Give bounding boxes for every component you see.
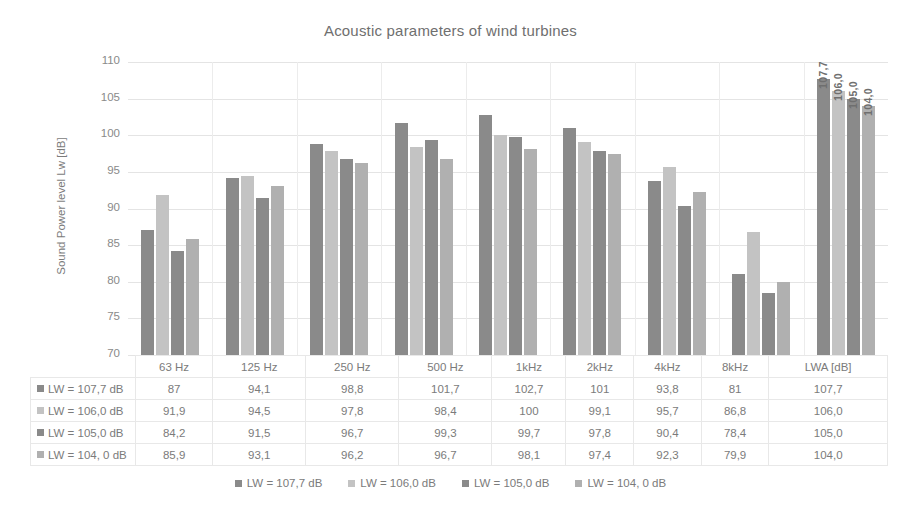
table-cell: 94,5 — [213, 400, 306, 422]
bar-cluster — [466, 62, 550, 355]
bar[interactable] — [440, 159, 453, 355]
table-cell: 91,9 — [136, 400, 213, 422]
bar[interactable] — [156, 195, 169, 355]
bar[interactable] — [762, 293, 775, 355]
bar-group — [635, 62, 719, 355]
bar[interactable] — [325, 151, 338, 355]
bar[interactable] — [355, 163, 368, 355]
table-row-header: LW = 104, 0 dB — [31, 444, 136, 466]
bar[interactable] — [241, 176, 254, 355]
bar-group — [719, 62, 803, 355]
y-axis-tick-label: 80 — [74, 274, 120, 286]
table-cell: 95,7 — [634, 400, 702, 422]
table-cell: 101 — [566, 378, 634, 400]
chart-legend: LW = 107,7 dBLW = 106,0 dBLW = 105,0 dBL… — [0, 477, 901, 489]
bar[interactable] — [663, 167, 676, 355]
bar[interactable] — [777, 282, 790, 355]
bar[interactable]: 105,0 — [847, 99, 860, 355]
table-cell: 104,0 — [769, 444, 888, 466]
table-row-header: LW = 107,7 dB — [31, 378, 136, 400]
bar[interactable] — [693, 192, 706, 355]
bar[interactable] — [648, 181, 661, 355]
bar[interactable]: 106,0 — [832, 91, 845, 355]
bar-cluster — [128, 62, 212, 355]
legend-item-label: LW = 105,0 dB — [474, 477, 550, 489]
table-cell: 97,8 — [566, 422, 634, 444]
legend-item[interactable]: LW = 104, 0 dB — [575, 477, 666, 489]
bar[interactable] — [395, 123, 408, 355]
table-cell: 85,9 — [136, 444, 213, 466]
table-column-header: 250 Hz — [306, 356, 399, 378]
table-cell: 93,1 — [213, 444, 306, 466]
bar[interactable] — [578, 142, 591, 355]
bar[interactable] — [678, 206, 691, 355]
y-axis-tick-label: 105 — [74, 91, 120, 103]
bar[interactable] — [425, 140, 438, 355]
table-column-header: 500 Hz — [399, 356, 492, 378]
bar[interactable] — [593, 151, 606, 355]
table-corner-cell — [31, 356, 136, 378]
bar[interactable] — [509, 137, 522, 355]
bar[interactable]: 107,7 — [817, 79, 830, 355]
table-row: LW = 107,7 dB8794,198,8101,7102,710193,8… — [31, 378, 888, 400]
table-cell: 96,7 — [399, 444, 492, 466]
cluster-separator — [297, 62, 298, 355]
bar[interactable] — [732, 274, 745, 355]
table-row-label: LW = 106,0 dB — [48, 405, 124, 417]
table-column-header: 1kHz — [492, 356, 566, 378]
y-axis-tick-label: 100 — [74, 127, 120, 139]
bar[interactable] — [256, 198, 269, 355]
bar-data-label: 106,0 — [826, 73, 838, 101]
bar[interactable] — [310, 144, 323, 355]
bar-group — [128, 62, 212, 355]
bar[interactable] — [747, 232, 760, 355]
bar[interactable] — [608, 154, 621, 355]
bar[interactable] — [479, 115, 492, 355]
chart-title: Acoustic parameters of wind turbines — [0, 22, 901, 39]
bar[interactable] — [340, 159, 353, 355]
table-cell: 106,0 — [769, 400, 888, 422]
bar[interactable] — [186, 239, 199, 355]
series-color-swatch-icon — [37, 451, 44, 458]
bar[interactable] — [171, 251, 184, 355]
table-cell: 99,1 — [566, 400, 634, 422]
bar[interactable] — [494, 135, 507, 355]
bar[interactable]: 104,0 — [862, 106, 875, 355]
bar[interactable] — [524, 149, 537, 355]
table-cell: 102,7 — [492, 378, 566, 400]
y-axis-tick-label: 110 — [74, 54, 120, 66]
table-column-header: 8kHz — [701, 356, 769, 378]
legend-item[interactable]: LW = 106,0 dB — [348, 477, 436, 489]
cluster-separator — [212, 62, 213, 355]
cluster-separator — [466, 62, 467, 355]
bar[interactable] — [271, 186, 284, 355]
bar[interactable] — [141, 230, 154, 355]
legend-item[interactable]: LW = 105,0 dB — [462, 477, 550, 489]
bar-data-label: 107,7 — [811, 61, 823, 89]
bar[interactable] — [563, 128, 576, 355]
series-color-swatch-icon — [37, 385, 44, 392]
legend-color-swatch-icon — [348, 480, 355, 487]
table-cell: 100 — [492, 400, 566, 422]
bar-cluster — [719, 62, 803, 355]
bar-cluster — [297, 62, 381, 355]
table-cell: 96,2 — [306, 444, 399, 466]
bar[interactable] — [410, 147, 423, 355]
table-cell: 81 — [701, 378, 769, 400]
table-row-label: LW = 107,7 dB — [48, 383, 124, 395]
table-row: LW = 106,0 dB91,994,597,898,410099,195,7… — [31, 400, 888, 422]
table-cell: 101,7 — [399, 378, 492, 400]
table-cell: 91,5 — [213, 422, 306, 444]
data-table: 63 Hz125 Hz250 Hz500 Hz1kHz2kHz4kHz8kHzL… — [30, 355, 888, 466]
chart-container: Acoustic parameters of wind turbines Sou… — [0, 0, 901, 507]
legend-color-swatch-icon — [575, 480, 582, 487]
bar[interactable] — [226, 178, 239, 355]
legend-item-label: LW = 104, 0 dB — [587, 477, 666, 489]
table-row-header: LW = 106,0 dB — [31, 400, 136, 422]
table-row: LW = 104, 0 dB85,993,196,296,798,197,492… — [31, 444, 888, 466]
table-cell: 90,4 — [634, 422, 702, 444]
table-column-header: 125 Hz — [213, 356, 306, 378]
bar-group — [550, 62, 634, 355]
y-axis-tick-label: 85 — [74, 237, 120, 249]
legend-item[interactable]: LW = 107,7 dB — [235, 477, 323, 489]
